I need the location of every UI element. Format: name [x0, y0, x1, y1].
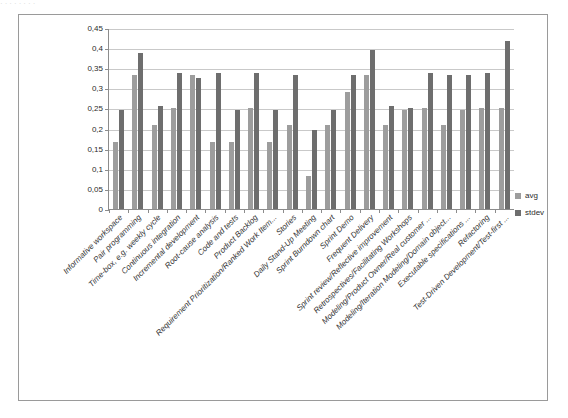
bar-stdev [273, 110, 278, 209]
bar-group [244, 29, 263, 209]
chart-legend: avgstdev [515, 191, 561, 225]
scan-noise-artifact: · · · · · · · · [0, 0, 568, 14]
bar-stdev [293, 75, 298, 209]
legend-swatch-icon [515, 193, 521, 199]
bar-stdev [216, 73, 221, 209]
bar-group [148, 29, 167, 209]
bar-avg [383, 125, 388, 209]
legend-item-stdev[interactable]: stdev [515, 208, 561, 217]
bar-stdev [235, 110, 240, 209]
bar-stdev [158, 106, 163, 209]
bar-stdev [254, 73, 259, 209]
y-tick-label: 0,35 [71, 65, 108, 73]
bar-group [475, 29, 494, 209]
bar-avg [287, 125, 292, 209]
bar-avg [152, 125, 157, 209]
bar-group [456, 29, 475, 209]
bar-stdev [331, 110, 336, 209]
bar-stdev [485, 73, 490, 209]
y-tick-label: 0,1 [71, 166, 108, 174]
bar-avg [132, 75, 137, 209]
bar-stdev [505, 41, 510, 209]
bar-stdev [138, 53, 143, 209]
bar-avg [325, 125, 330, 209]
bar-avg [441, 125, 446, 209]
bar-avg [171, 108, 176, 209]
bar-avg [499, 108, 504, 209]
bar-avg [364, 75, 369, 209]
y-tick-label: 0 [71, 206, 108, 214]
bar-group [205, 29, 224, 209]
bar-stdev [119, 110, 124, 209]
chart-frame: 00,050,10,150,20,250,30,350,40,45 Inform… [18, 14, 548, 401]
bar-avg [113, 142, 118, 209]
bar-series-layer [109, 29, 514, 209]
bar-stdev [351, 75, 356, 209]
y-tick-label: 0,4 [71, 45, 108, 53]
bar-avg [248, 108, 253, 209]
bar-avg [190, 75, 195, 209]
bar-avg [306, 176, 311, 209]
bar-stdev [408, 108, 413, 209]
bar-group [398, 29, 417, 209]
bar-avg [210, 142, 215, 209]
bar-group [128, 29, 147, 209]
bar-group [109, 29, 128, 209]
bar-group [418, 29, 437, 209]
bar-group [302, 29, 321, 209]
bar-avg [479, 108, 484, 209]
bar-stdev [312, 130, 317, 209]
plot-area: 00,050,10,150,20,250,30,350,40,45 [108, 29, 514, 210]
bar-group [495, 29, 514, 209]
legend-label: avg [525, 191, 538, 200]
bar-stdev [389, 106, 394, 209]
plot-wrapper: 00,050,10,150,20,250,30,350,40,45 [74, 29, 514, 225]
bar-stdev [196, 78, 201, 209]
bar-avg [402, 110, 407, 209]
y-tick-label: 0,25 [71, 105, 108, 113]
bar-group [379, 29, 398, 209]
bar-group [437, 29, 456, 209]
bar-group [283, 29, 302, 209]
y-tick-label: 0,45 [71, 25, 108, 33]
legend-label: stdev [525, 208, 544, 217]
bar-group [225, 29, 244, 209]
scan-noise-text: · · · · · · · · [0, 0, 35, 8]
bar-avg [345, 92, 350, 209]
y-tick-label: 0,3 [71, 85, 108, 93]
bar-stdev [177, 73, 182, 209]
bar-group [340, 29, 359, 209]
bar-avg [460, 110, 465, 209]
legend-swatch-icon [515, 210, 521, 216]
bar-avg [267, 142, 272, 209]
bar-stdev [428, 73, 433, 209]
bar-group [167, 29, 186, 209]
bar-group [360, 29, 379, 209]
bar-stdev [447, 75, 452, 209]
bar-stdev [466, 75, 471, 209]
bar-stdev [370, 50, 375, 209]
y-tick-label: 0,05 [71, 186, 108, 194]
x-axis-labels: Informative workspacePair programmingTim… [108, 211, 514, 381]
bar-group [263, 29, 282, 209]
bar-group [321, 29, 340, 209]
bar-group [186, 29, 205, 209]
y-tick-label: 0,15 [71, 146, 108, 154]
y-tick-label: 0,2 [71, 126, 108, 134]
legend-item-avg[interactable]: avg [515, 191, 561, 200]
bar-avg [422, 108, 427, 209]
bar-avg [229, 142, 234, 209]
